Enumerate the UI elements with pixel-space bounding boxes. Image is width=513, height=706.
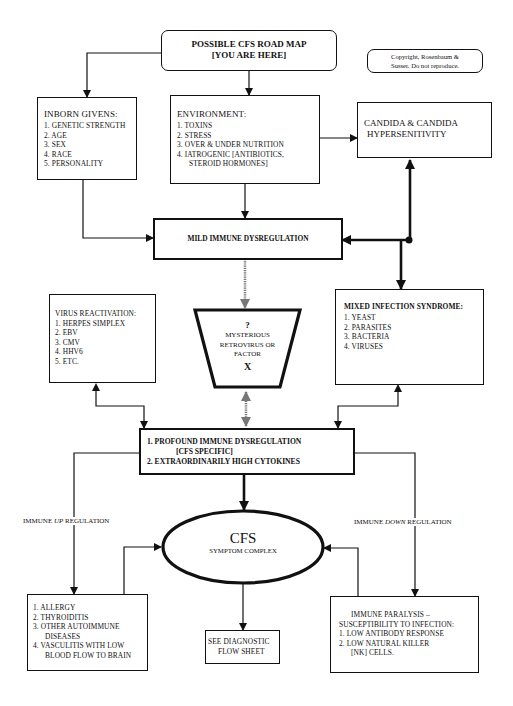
up-item: 3. OTHER AUTOIMMUNE bbox=[33, 622, 147, 632]
mysterious-factor-text: ? MYSTERIOUS RETROVIRUS OR FACTOR X bbox=[205, 320, 290, 373]
immune-down-regulation-label: IMMUNE DOWN REGULATION bbox=[353, 518, 453, 526]
mixed-item: 4. VIRUSES bbox=[344, 342, 483, 352]
diagnostic-line-1: SEE DIAGNOSTIC bbox=[208, 637, 279, 647]
environment-item: 1. TOXINS bbox=[177, 121, 319, 131]
immune-paralysis-box: IMMUNE PARALYSIS – SUSCEPTIBILITY TO INF… bbox=[330, 596, 479, 673]
virus-item: 1. HERPES SIMPLEX bbox=[55, 319, 155, 329]
down-box-to-cfs-arrow bbox=[324, 548, 358, 596]
profound-line-2: [CFS SPECIFIC] bbox=[147, 447, 353, 457]
inborn-item: 4. RACE bbox=[44, 150, 136, 160]
environment-item: 2. STRESS bbox=[177, 131, 319, 141]
inborn-item: 5. PERSONALITY bbox=[44, 159, 136, 169]
inborn-to-mild-arrow bbox=[83, 179, 153, 238]
up-emphasis: UP bbox=[54, 517, 63, 525]
inborn-givens-heading: INBORN GIVENS: bbox=[44, 108, 136, 121]
paralysis-line-1: IMMUNE PARALYSIS – bbox=[339, 610, 478, 620]
mild-immune-dysregulation-box: MILD IMMUNE DYSREGULATION bbox=[153, 218, 343, 260]
inborn-givens-box: INBORN GIVENS: 1. GENETIC STRENGTH 2. AG… bbox=[37, 97, 137, 180]
paralysis-line-5: [NK] CELLS. bbox=[339, 648, 478, 658]
paralysis-line-4: 2. LOW NATURAL KILLER bbox=[339, 639, 478, 649]
mixed-item: 1. YEAST bbox=[344, 313, 483, 323]
profound-line-1: 1. PROFOUND IMMUNE DYSREGULATION bbox=[147, 437, 353, 447]
profound-line-3: 2. EXTRAORDINARILY HIGH CYTOKINES bbox=[147, 457, 353, 467]
up-box-to-cfs-arrow bbox=[124, 547, 161, 594]
mild-immune-label: MILD IMMUNE DYSREGULATION bbox=[155, 234, 341, 244]
virus-profound-double-arrow bbox=[92, 383, 144, 428]
copyright-line-2: Susser. Do not reproduce. bbox=[368, 61, 482, 70]
inborn-item: 1. GENETIC STRENGTH bbox=[44, 121, 136, 131]
profound-immune-dysregulation-box: 1. PROFOUND IMMUNE DYSREGULATION [CFS SP… bbox=[139, 428, 355, 475]
cfs-subtitle: SYMPTOM COMPLEX bbox=[183, 546, 303, 556]
candida-box: CANDIDA & CANDIDA HYPERSENITIVITY bbox=[357, 102, 492, 158]
candida-mild-mixed-junction bbox=[342, 160, 413, 289]
diagnostic-flow-sheet-box: SEE DIAGNOSTIC FLOW SHEET bbox=[205, 630, 280, 664]
environment-box: ENVIRONMENT: 1. TOXINS 2. STRESS 3. OVER… bbox=[170, 95, 320, 184]
up-regulation-outcomes-box: 1. ALLERGY 2. THYROIDITIS 3. OTHER AUTOI… bbox=[27, 594, 148, 671]
road-map-subtitle: [YOU ARE HERE] bbox=[162, 50, 336, 61]
mixed-infection-box: MIXED INFECTION SYNDROME: 1. YEAST 2. PA… bbox=[335, 289, 484, 385]
mixed-profound-double-arrow bbox=[338, 384, 402, 428]
copyright-notice: Copyright, Rosenbaum & Susser. Do not re… bbox=[367, 49, 483, 73]
question-mark: ? bbox=[205, 320, 290, 331]
environment-heading: ENVIRONMENT: bbox=[177, 108, 319, 121]
up-item: 4. VASCULITIS WITH LOW bbox=[33, 641, 147, 651]
immune-up-regulation-label: IMMUNE UP REGULATION bbox=[22, 517, 110, 525]
paralysis-line-2: SUSCEPTIBILITY TO INFECTION: bbox=[339, 620, 478, 630]
title-to-inborn-arrow bbox=[87, 53, 161, 97]
down-emphasis: DOWN bbox=[385, 518, 406, 526]
up-item: 1. ALLERGY bbox=[33, 603, 147, 613]
mysterious-line-1: MYSTERIOUS bbox=[205, 331, 290, 341]
up-item: DISEASES bbox=[33, 632, 147, 642]
virus-item: 3. CMV bbox=[55, 338, 155, 348]
mysterious-line-3: FACTOR bbox=[205, 350, 290, 360]
mysterious-line-2: RETROVIRUS OR bbox=[205, 341, 290, 351]
candida-line-1: CANDIDA & CANDIDA bbox=[364, 118, 491, 129]
virus-item: 5. ETC. bbox=[55, 357, 155, 367]
road-map-title-box: POSSIBLE CFS ROAD MAP [YOU ARE HERE] bbox=[161, 30, 337, 71]
environment-item: 4. IATROGENIC [ANTIBIOTICS, bbox=[177, 150, 319, 160]
paralysis-line-3: 1. LOW ANTIBODY RESPONSE bbox=[339, 629, 478, 639]
environment-item: 3. OVER & UNDER NUTRITION bbox=[177, 140, 319, 150]
virus-reactivation-box: VIRUS REACTIVATION: 1. HERPES SIMPLEX 2.… bbox=[49, 294, 156, 383]
mixed-item: 3. BACTERIA bbox=[344, 332, 483, 342]
cfs-symptom-complex: CFS SYMPTOM COMPLEX bbox=[183, 530, 303, 556]
mixed-item: 2. PARASITES bbox=[344, 323, 483, 333]
diagnostic-line-2: FLOW SHEET bbox=[208, 647, 279, 657]
mixed-infection-heading: MIXED INFECTION SYNDROME: bbox=[344, 300, 483, 313]
inborn-item: 3. SEX bbox=[44, 140, 136, 150]
up-item: 2. THYROIDITIS bbox=[33, 613, 147, 623]
virus-item: 4. HHV6 bbox=[55, 347, 155, 357]
candida-line-2: HYPERSENITIVITY bbox=[364, 129, 491, 140]
up-item: BLOOD FLOW TO BRAIN bbox=[33, 651, 147, 661]
virus-item: 2. EBV bbox=[55, 328, 155, 338]
copyright-line-1: Copyright, Rosenbaum & bbox=[368, 52, 482, 61]
virus-heading: VIRUS REACTIVATION: bbox=[55, 309, 155, 319]
environment-item: STEROID HORMONES] bbox=[177, 159, 319, 169]
inborn-item: 2. AGE bbox=[44, 131, 136, 141]
factor-x: X bbox=[205, 360, 290, 373]
cfs-title: CFS bbox=[183, 530, 303, 546]
road-map-title: POSSIBLE CFS ROAD MAP bbox=[162, 39, 336, 50]
